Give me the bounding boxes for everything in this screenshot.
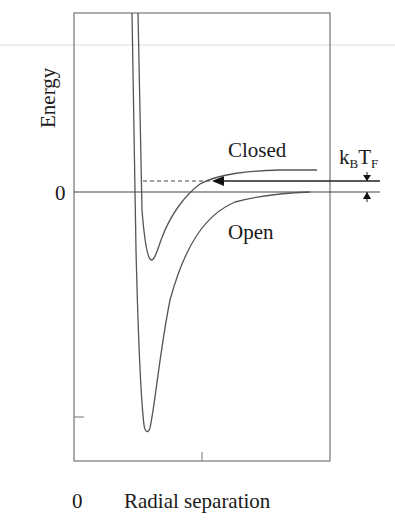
y-axis-zero-label: 0 [55,183,66,204]
up-arrowhead-icon [363,192,371,199]
kbtf-k: k [339,145,350,169]
kbtf-t: T [358,145,371,169]
x-axis-zero-label: 0 [72,491,83,512]
kbtf-f-subscript: F [371,156,378,171]
open-channel-curve [132,13,310,432]
x-axis-title: Radial separation [124,491,270,512]
kbtf-label: kBTF [339,147,378,170]
plot-frame [74,13,330,461]
closed-channel-label: Closed [228,140,286,161]
kbtf-b-subscript: B [350,156,359,171]
y-axis-title: Energy [38,68,59,128]
open-channel-label: Open [228,222,274,243]
down-arrowhead-icon [363,175,371,181]
